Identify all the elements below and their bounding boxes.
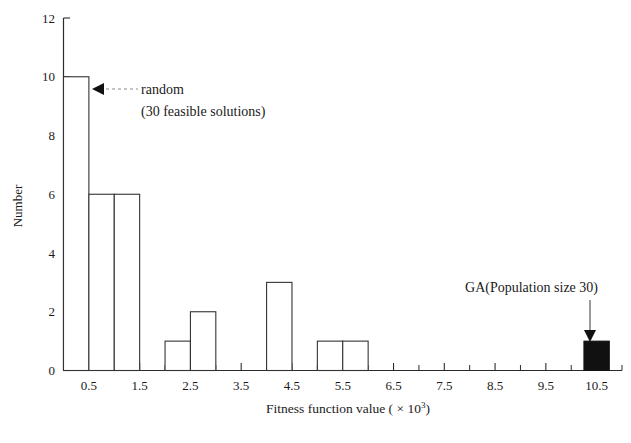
x-tick-label: 4.5 <box>284 378 300 393</box>
y-tick-label: 2 <box>49 304 56 319</box>
x-tick-label-group: 0.51.52.53.54.55.56.57.58.59.510.5 <box>81 378 608 393</box>
chart-svg: 024681012 Number 0.51.52.53.54.55.56.57.… <box>0 0 631 443</box>
x-tick-label: 3.5 <box>233 378 249 393</box>
histogram-bar <box>64 77 89 371</box>
histogram-chart: 024681012 Number 0.51.52.53.54.55.56.57.… <box>0 0 631 443</box>
x-tick-label: 7.5 <box>436 378 452 393</box>
x-tick-label: 5.5 <box>335 378 351 393</box>
y-tick-label-group: 024681012 <box>42 11 56 379</box>
bars-random-series <box>64 77 369 371</box>
histogram-bar <box>190 312 215 371</box>
y-tick-label: 10 <box>42 69 55 84</box>
x-axis-title-tail: ) <box>425 401 430 416</box>
annotation-random: random (30 feasible solutions) <box>92 82 266 120</box>
histogram-bar <box>267 282 292 370</box>
annotation-ga: GA(Population size 30) <box>465 280 598 342</box>
histogram-bar <box>114 194 139 370</box>
histogram-bar <box>89 194 114 370</box>
x-tick-label: 10.5 <box>585 378 608 393</box>
y-tick-label: 8 <box>49 128 56 143</box>
histogram-bar <box>343 341 368 370</box>
x-tick-label: 8.5 <box>487 378 503 393</box>
y-tick-label: 6 <box>49 187 56 202</box>
histogram-bar <box>584 341 609 370</box>
annotation-random-line1: random <box>141 82 184 97</box>
bars-ga-series <box>584 341 609 370</box>
y-axis: 024681012 Number <box>10 11 70 379</box>
x-tick-label: 2.5 <box>182 378 198 393</box>
y-tick-label: 12 <box>42 11 55 26</box>
x-axis-title-main: Fitness function value ( × 10 <box>266 401 421 416</box>
y-tick-label: 0 <box>49 363 56 378</box>
annotation-ga-label: GA(Population size 30) <box>465 280 598 296</box>
y-axis-title: Number <box>10 184 25 227</box>
annotation-random-line2: (30 feasible solutions) <box>141 104 266 120</box>
histogram-bar <box>317 341 342 370</box>
x-tick-label: 1.5 <box>132 378 148 393</box>
x-tick-label: 0.5 <box>81 378 97 393</box>
x-tick-label: 9.5 <box>538 378 554 393</box>
x-axis-title: Fitness function value ( × 103) <box>266 400 430 416</box>
arrow-down-icon <box>584 330 596 342</box>
histogram-bar <box>165 341 190 370</box>
y-tick-label: 4 <box>49 246 56 261</box>
x-tick-label: 6.5 <box>385 378 401 393</box>
arrow-left-icon <box>92 83 104 95</box>
